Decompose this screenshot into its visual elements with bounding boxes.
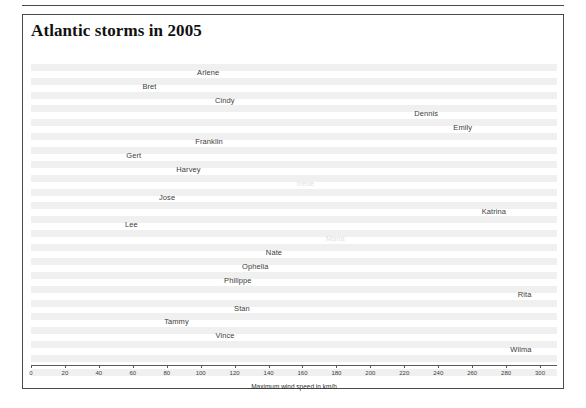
storm-label: Arlene	[197, 67, 219, 76]
x-axis-tick-label: 40	[96, 370, 103, 376]
x-axis-tick-label: 20	[62, 370, 69, 376]
x-axis-tick	[133, 365, 134, 368]
row-band	[31, 230, 557, 237]
storm-label: Lee	[125, 220, 138, 229]
x-axis-tick-label: 0	[29, 370, 32, 376]
row-band	[31, 175, 557, 182]
x-axis-tick	[269, 365, 270, 368]
storm-label: Bret	[142, 81, 156, 90]
storm-label: Stan	[234, 303, 250, 312]
x-axis-line	[31, 365, 557, 366]
storm-label: Maria	[326, 234, 345, 243]
storm-label: Franklin	[195, 137, 222, 146]
storm-label: Philippe	[224, 275, 252, 284]
row-band	[31, 161, 557, 168]
x-axis-tick-label: 120	[230, 370, 240, 376]
row-band	[31, 355, 557, 362]
storm-label: Tammy	[164, 317, 189, 326]
x-axis-tick-label: 100	[196, 370, 206, 376]
row-band	[31, 147, 557, 154]
row-band	[31, 133, 557, 140]
row-band	[31, 119, 557, 126]
row-band	[31, 216, 557, 223]
storm-label: Jose	[159, 192, 175, 201]
row-band	[31, 244, 557, 251]
row-band	[31, 313, 557, 320]
x-axis-title-wrap: Maximum wind speed in km/h	[31, 383, 557, 390]
storm-label: Rita	[518, 289, 532, 298]
x-axis-tick-label: 300	[535, 370, 545, 376]
x-axis-tick	[235, 365, 236, 368]
x-axis-tick	[506, 365, 507, 368]
row-band	[31, 189, 557, 196]
plot-area: ArleneBretCindyDennisEmilyFranklinGertHa…	[31, 58, 557, 363]
x-axis-tick	[370, 365, 371, 368]
x-axis-tick-label: 220	[399, 370, 409, 376]
storm-label: Wilma	[510, 345, 531, 354]
storm-label: Katrina	[482, 206, 506, 215]
storm-label: Dennis	[414, 109, 438, 118]
figure-frame: Atlantic storms in 2005 ArleneBretCindyD…	[22, 14, 564, 389]
storm-label: Irene	[297, 178, 315, 187]
x-axis-tick-label: 240	[433, 370, 443, 376]
top-divider	[22, 5, 564, 6]
storm-label: Gert	[126, 151, 141, 160]
row-band	[31, 272, 557, 279]
row-band	[31, 78, 557, 85]
storm-label: Nate	[266, 248, 282, 257]
row-band	[31, 341, 557, 348]
x-axis-tick-label: 160	[297, 370, 307, 376]
x-axis-tick-label: 280	[501, 370, 511, 376]
row-band	[31, 64, 557, 71]
x-axis-tick-label: 200	[365, 370, 375, 376]
row-band	[31, 202, 557, 209]
page-title: Atlantic storms in 2005	[31, 21, 202, 41]
x-axis-tick	[472, 365, 473, 368]
x-axis-title: Maximum wind speed in km/h	[31, 383, 557, 390]
x-axis-tick	[336, 365, 337, 368]
x-axis-tick	[302, 365, 303, 368]
storm-label: Vince	[215, 331, 234, 340]
storm-label: Harvey	[176, 164, 200, 173]
row-band	[31, 105, 557, 112]
x-axis-tick-label: 180	[331, 370, 341, 376]
x-axis-tick	[99, 365, 100, 368]
x-axis-tick-label: 140	[264, 370, 274, 376]
x-axis-tick	[31, 365, 32, 368]
row-band	[31, 92, 557, 99]
storm-label: Cindy	[215, 95, 235, 104]
x-axis-tick	[167, 365, 168, 368]
row-band	[31, 327, 557, 334]
row-band	[31, 258, 557, 265]
x-axis-tick-label: 80	[163, 370, 170, 376]
row-band	[31, 286, 557, 293]
storm-label: Emily	[453, 123, 472, 132]
x-axis-tick	[201, 365, 202, 368]
x-axis-tick	[438, 365, 439, 368]
x-axis-tick-label: 60	[129, 370, 136, 376]
row-band	[31, 300, 557, 307]
x-axis-tick	[540, 365, 541, 368]
x-axis-tick	[65, 365, 66, 368]
storm-label: Ophelia	[242, 261, 269, 270]
x-axis-tick	[404, 365, 405, 368]
x-axis-tick-label: 260	[467, 370, 477, 376]
